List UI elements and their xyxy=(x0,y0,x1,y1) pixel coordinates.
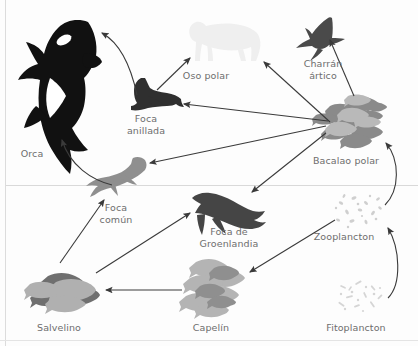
label-phytoplankton: Fitoplancton xyxy=(315,322,397,334)
label-polar-bear: Oso polar xyxy=(176,70,236,82)
label-arctic-char: Salvelino xyxy=(26,322,92,334)
label-capelin: Capelín xyxy=(182,322,240,334)
label-ringed-seal: Foca anillada xyxy=(116,113,176,136)
arrow-polar-cod-to-common-seal xyxy=(150,126,326,163)
food-web-diagram: Orca Foca anillada Oso polar Charrán árt… xyxy=(0,0,418,346)
label-harp-seal: Foca de Groenlandia xyxy=(190,226,268,249)
food-web-arrows-layer xyxy=(0,0,418,346)
arrow-phytoplankton-to-zooplankton xyxy=(388,228,398,298)
arrow-ringed-seal-to-orca xyxy=(102,33,137,95)
label-common-seal: Foca común xyxy=(90,202,142,225)
arrow-common-seal-to-orca xyxy=(62,140,112,185)
label-orca: Orca xyxy=(10,148,54,160)
label-arctic-tern: Charrán ártico xyxy=(296,58,350,81)
arrow-polar-cod-to-ringed-seal xyxy=(184,104,328,121)
label-zooplankton: Zooplancton xyxy=(303,231,385,243)
arrow-zooplankton-to-polar-cod xyxy=(385,143,396,205)
label-polar-cod: Bacalao polar xyxy=(307,155,385,167)
